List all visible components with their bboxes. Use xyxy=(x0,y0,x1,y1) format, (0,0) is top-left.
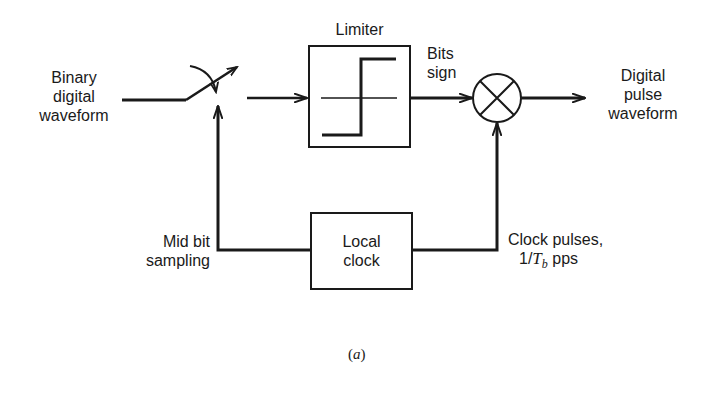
input-label-line: Binary xyxy=(30,68,118,87)
bits-sign-label-line: sign xyxy=(427,63,456,82)
mid-bit-sampling-label: Mid bit sampling xyxy=(122,232,210,270)
limiter-label: Limiter xyxy=(309,20,410,39)
rate-prefix: 1/ xyxy=(519,250,532,267)
clock-to-multiplier-line xyxy=(412,123,497,250)
output-label-line: pulse xyxy=(598,85,688,104)
limiter-block xyxy=(309,46,410,147)
local-clock-label: Local clock xyxy=(311,232,412,270)
bits-sign-label-line: Bits xyxy=(427,44,456,63)
local-clock-label-line: Local xyxy=(311,232,412,251)
bits-sign-label: Bits sign xyxy=(427,44,456,82)
mid-bit-sampling-line: Mid bit xyxy=(122,232,210,251)
rate-suffix: pps xyxy=(548,250,578,267)
clock-pulses-label: Clock pulses, 1/Tb pps xyxy=(508,230,603,274)
figure-caption-letter: a xyxy=(353,346,361,362)
output-label-line: Digital xyxy=(598,66,688,85)
clock-to-switch-line xyxy=(218,106,311,250)
input-label-line: digital xyxy=(30,87,118,106)
multiplier-icon xyxy=(473,74,521,122)
switch-blade-arrow-icon xyxy=(186,67,237,100)
input-label: Binary digital waveform xyxy=(30,68,118,125)
block-diagram-canvas xyxy=(0,0,709,399)
figure-caption: (a) xyxy=(348,346,366,363)
rate-variable: T xyxy=(532,249,541,268)
local-clock-label-line: clock xyxy=(311,251,412,270)
clock-pulses-line: Clock pulses, xyxy=(508,230,603,249)
output-label: Digital pulse waveform xyxy=(598,66,688,123)
input-label-line: waveform xyxy=(30,106,118,125)
mid-bit-sampling-line: sampling xyxy=(122,251,210,270)
clock-pulses-rate: 1/Tb pps xyxy=(508,249,603,274)
output-label-line: waveform xyxy=(598,104,688,123)
